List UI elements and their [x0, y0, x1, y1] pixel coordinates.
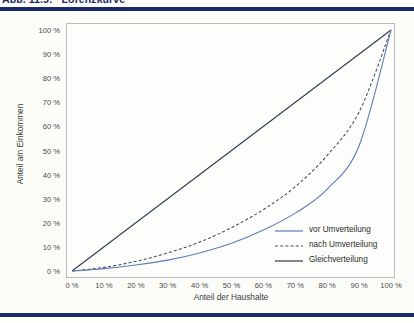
- x-axis-title: Anteil der Haushalte: [66, 292, 396, 302]
- legend-item-gleichverteilung: Gleichverteilung: [275, 253, 377, 268]
- legend-label-gleichverteilung: Gleichverteilung: [309, 256, 368, 264]
- y-tick-label: 30 %: [20, 194, 60, 203]
- caption-number: Abb. 11.5:: [2, 0, 53, 5]
- y-tick-label: 90 %: [20, 50, 60, 59]
- legend-label-vor-umverteilung: vor Umverteilung: [309, 226, 371, 234]
- figure-caption: Abb. 11.5:Lorenzkurve: [0, 0, 414, 6]
- y-tick-label: 10 %: [20, 242, 60, 251]
- y-tick-label: 50 %: [20, 146, 60, 155]
- caption-title: Lorenzkurve: [62, 0, 126, 5]
- y-tick-label: 0 %: [20, 267, 60, 276]
- y-tick-label: 70 %: [20, 98, 60, 107]
- legend-line-solid-blue-icon: [275, 226, 303, 235]
- y-tick-label: 60 %: [20, 122, 60, 131]
- y-tick-label: 20 %: [20, 218, 60, 227]
- legend-line-dashed-icon: [275, 241, 303, 250]
- divider-bottom: [0, 313, 414, 317]
- y-tick-label: 40 %: [20, 170, 60, 179]
- legend-item-vor-umverteilung: vor Umverteilung: [275, 223, 377, 238]
- y-tick-label: 80 %: [20, 74, 60, 83]
- legend-item-nach-umverteilung: nach Umverteilung: [275, 238, 377, 253]
- y-tick-label: 100 %: [20, 26, 60, 35]
- chart-figure: Anteil am Einkommen Anteil der Haushalte…: [0, 11, 414, 313]
- chart-legend: vor Umverteilung nach Umverteilung Gleic…: [275, 223, 377, 268]
- legend-line-solid-dark-icon: [275, 256, 303, 265]
- y-axis-title: Anteil am Einkommen: [15, 74, 25, 214]
- x-tick-label: 100 %: [371, 281, 411, 290]
- legend-label-nach-umverteilung: nach Umverteilung: [309, 241, 377, 249]
